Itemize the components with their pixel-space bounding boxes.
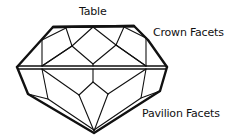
crown-facet-edge <box>42 46 72 66</box>
crown-outline <box>17 26 167 67</box>
pavilion-facet-edge <box>93 82 108 94</box>
crown-facet-edge <box>66 28 72 46</box>
table-label: Table <box>79 6 106 17</box>
crown-facet-edge <box>93 45 116 64</box>
pavilion-section <box>17 64 167 133</box>
pavilion-facet-edge <box>42 69 48 99</box>
crown-facet-edge <box>116 45 146 66</box>
crown-facets-label: Crown Facets <box>153 27 224 38</box>
pavilion-facets-label: Pavilion Facets <box>142 108 220 119</box>
crown-section <box>17 26 167 67</box>
crown-facet-edge <box>72 27 93 46</box>
pavilion-facet-edge <box>42 69 79 95</box>
pavilion-facet-edge <box>141 69 146 98</box>
crown-facet-edge <box>116 27 124 45</box>
crown-facet-edge <box>93 27 116 45</box>
girdle <box>18 66 166 69</box>
gem-diagram: Table Crown Facets Pavilion Facets <box>0 0 241 137</box>
pavilion-facet-edge <box>108 69 146 94</box>
crown-facet-edge <box>72 46 93 64</box>
pavilion-facet-edge <box>79 82 93 95</box>
